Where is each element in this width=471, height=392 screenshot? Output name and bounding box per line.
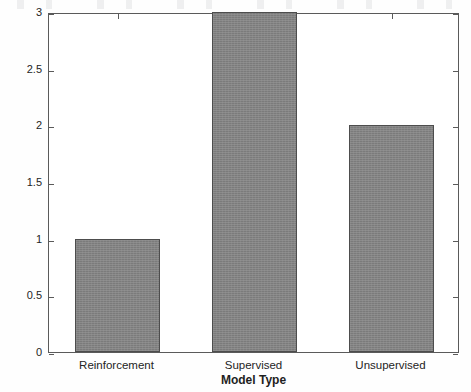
figure-canvas: Applications in AI Security 00.511.522.5… — [0, 0, 471, 392]
y-axis-tick-mirror — [453, 127, 458, 128]
y-axis-tick-label: 1 — [2, 234, 42, 245]
x-axis-tick-label: Reinforcement — [48, 360, 185, 372]
y-axis-tick — [49, 184, 54, 185]
bar-unsupervised — [349, 125, 434, 352]
y-axis-tick — [49, 71, 54, 72]
y-axis-tick-label: 1.5 — [2, 177, 42, 188]
y-axis-tick-label: 3 — [2, 7, 42, 18]
y-axis-tick — [49, 14, 54, 15]
y-axis-tick-mirror — [453, 14, 458, 15]
y-axis-tick — [49, 354, 54, 355]
scan-artifact-band — [0, 0, 471, 9]
bar-supervised — [212, 12, 297, 352]
x-axis-tick-label: Unsupervised — [322, 360, 459, 372]
x-axis-tick-mirror — [392, 14, 393, 19]
plot-area — [48, 13, 459, 353]
y-axis-tick-mirror — [453, 241, 458, 242]
bar-reinforcement — [75, 239, 160, 352]
y-axis-tick — [49, 241, 54, 242]
y-axis-tick-mirror — [453, 297, 458, 298]
y-axis-tick — [49, 127, 54, 128]
y-axis-tick-mirror — [453, 184, 458, 185]
x-axis-tick-mirror — [118, 14, 119, 19]
y-axis-tick-mirror — [453, 354, 458, 355]
y-axis-tick — [49, 297, 54, 298]
y-axis-tick-label: 2.5 — [2, 64, 42, 75]
x-axis-title: Model Type — [48, 373, 459, 387]
y-axis-tick-label: 0.5 — [2, 290, 42, 301]
y-axis-tick-label: 2 — [2, 120, 42, 131]
y-axis-tick-mirror — [453, 71, 458, 72]
y-axis-tick-label: 0 — [2, 347, 42, 358]
x-axis-tick-label: Supervised — [185, 360, 322, 372]
